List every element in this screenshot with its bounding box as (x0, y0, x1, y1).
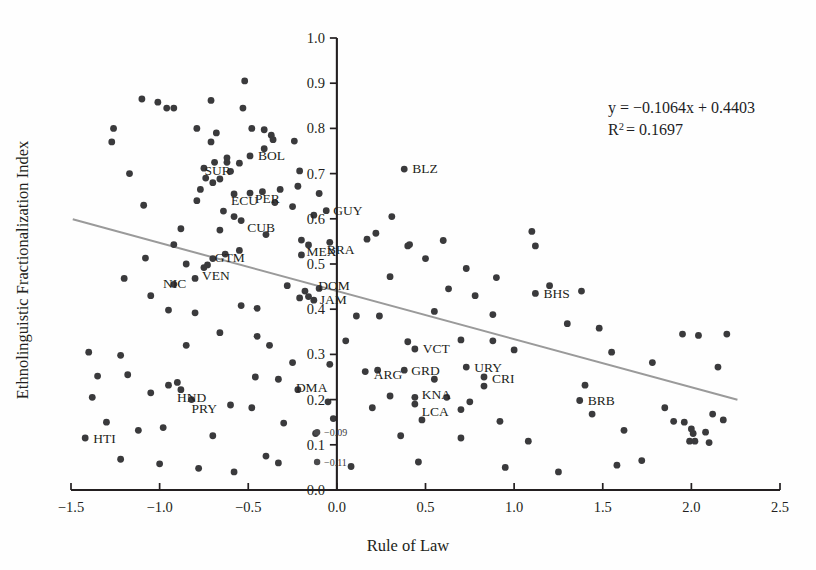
data-point (216, 227, 223, 234)
point-label-kna: KNA (422, 387, 451, 402)
data-point (208, 97, 215, 104)
point-label-brb: BRB (588, 393, 615, 408)
x-tick-label: 2.5 (771, 499, 789, 515)
data-point (582, 382, 589, 389)
data-point (227, 402, 234, 409)
x-tick-label: −1.5 (58, 499, 84, 515)
data-point (330, 415, 337, 422)
data-point (252, 374, 259, 381)
data-point (139, 96, 146, 103)
y-tick-label: 0.3 (307, 346, 325, 362)
data-point (353, 313, 360, 320)
data-point (270, 136, 277, 143)
data-point (209, 432, 216, 439)
data-point (275, 376, 282, 383)
data-point (397, 432, 404, 439)
data-point (720, 417, 727, 424)
data-point (296, 295, 303, 302)
data-point (280, 420, 287, 427)
data-point (121, 275, 128, 282)
data-point (284, 282, 291, 289)
data-point (502, 464, 509, 471)
data-point (596, 325, 603, 332)
data-point (240, 105, 247, 112)
plot-canvas: −1.5−1.0−0.50.00.51.01.52.02.50.00.10.20… (0, 0, 816, 570)
data-point (404, 338, 411, 345)
data-point (525, 438, 532, 445)
data-point (220, 208, 227, 215)
point-label-arg: ARG (374, 367, 403, 382)
data-point (532, 243, 539, 250)
point-label-bol: BOL (258, 148, 285, 163)
data-point (154, 99, 161, 106)
data-point (458, 337, 465, 344)
data-point (89, 394, 96, 401)
x-tick-label: 1.5 (594, 499, 612, 515)
data-point (472, 292, 479, 299)
data-point (511, 346, 518, 353)
r-squared-label: R2= 0.1697 (608, 121, 683, 138)
y-axis-title: Ethnolinguistic Fractionalization Index (13, 140, 32, 399)
data-point (197, 186, 204, 193)
point-label-jam: JAM (320, 292, 347, 307)
data-point-lca (411, 401, 418, 408)
point-label-bra: BRA (327, 242, 355, 257)
data-point (163, 105, 170, 112)
data-point (440, 237, 447, 244)
point-label-grd: GRD (411, 363, 440, 378)
data-point (289, 203, 296, 210)
point-label-nic: NIC (163, 276, 186, 291)
data-point (195, 465, 202, 472)
data-point (692, 438, 699, 445)
data-point (177, 225, 184, 232)
data-point (140, 202, 147, 209)
data-point (706, 439, 713, 446)
data-point (342, 337, 349, 344)
y-tick-label: 0.6 (307, 211, 325, 227)
data-point (236, 160, 243, 167)
x-tick-label: −1.0 (146, 499, 172, 515)
data-point (614, 462, 621, 469)
data-point (241, 78, 248, 85)
point-label-ven: VEN (202, 268, 230, 283)
point-label-cub: CUB (247, 220, 275, 235)
data-point (261, 126, 268, 133)
data-point (493, 274, 500, 281)
point-label-per: PER (255, 191, 280, 206)
data-point (108, 139, 115, 146)
data-point (238, 302, 245, 309)
data-point (124, 371, 131, 378)
data-point-hti (82, 435, 89, 442)
data-point (254, 305, 261, 312)
annotations-layer: −0.09−0.11 (324, 427, 347, 468)
data-point (387, 273, 394, 280)
data-point-vct (411, 346, 418, 353)
point-label-gtm: GTM (215, 250, 245, 265)
x-tick-label: 1.0 (505, 499, 523, 515)
data-point (192, 309, 199, 316)
data-point (193, 197, 200, 204)
data-point (649, 359, 656, 366)
data-point (489, 311, 496, 318)
point-label-lca: LCA (422, 404, 449, 419)
data-point (266, 342, 273, 349)
data-point (298, 237, 305, 244)
data-point (681, 419, 688, 426)
data-point (231, 213, 238, 220)
data-point (670, 418, 677, 425)
point-label-pry: PRY (192, 401, 218, 416)
data-point (709, 411, 716, 418)
y-tick-label: 0.0 (307, 482, 325, 498)
data-point (364, 236, 371, 243)
y-tick-label: 0.1 (307, 437, 325, 453)
data-point (94, 373, 101, 380)
data-point (263, 453, 270, 460)
data-point (165, 307, 172, 314)
data-point (578, 288, 585, 295)
data-point (117, 456, 124, 463)
data-point (160, 424, 167, 431)
point-labels-layer: BOLSURECUPERCUBGUYMEXBRAGTMVENNICDOMJAMB… (93, 148, 615, 446)
data-point (289, 359, 296, 366)
point-label-vct: VCT (423, 341, 451, 356)
x-tick-label: 0.0 (328, 499, 346, 515)
